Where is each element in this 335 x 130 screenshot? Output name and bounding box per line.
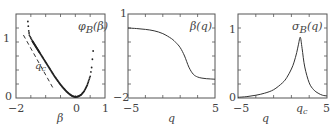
data-point [89, 75, 91, 77]
data-point [28, 30, 30, 32]
panel3-xlabel: q [262, 112, 269, 125]
panel2-series-label: β(q) [189, 20, 212, 33]
panel-sigma-q: σB(q) 1 0 −5 qc 5 q [229, 14, 330, 125]
data-point [91, 58, 93, 60]
data-point [92, 50, 94, 52]
panel1-xlabel: β [56, 112, 63, 125]
figure: φB(β) qc 1 0 −2 0 1 β β(q) 1 −2 −5 5 q σ… [0, 0, 335, 130]
data-point [90, 71, 92, 73]
panel-beta-q: β(q) 1 −2 −5 5 q [113, 7, 219, 125]
panel2-xlabel: q [168, 112, 175, 125]
panel3-ytick-1: 1 [229, 23, 236, 36]
data-point [27, 21, 29, 23]
data-point [91, 67, 93, 69]
panel1-xtick-0: 0 [73, 102, 80, 115]
panel3-series-label: σB(q) [292, 20, 323, 35]
panel3-xtick-qc: qc [296, 102, 308, 116]
panel3-sigma-curve [238, 37, 327, 97]
panel3-xtick-neg5: −5 [233, 102, 249, 115]
panel1-xtick-neg2: −2 [8, 102, 24, 115]
panel-phi-beta: φB(β) qc 1 0 −2 0 1 β [3, 14, 109, 125]
panel3-xtick-5: 5 [323, 102, 330, 115]
panel1-series-label: φB(β) [78, 20, 108, 35]
data-point [27, 25, 29, 27]
panel2-ytick-1: 1 [120, 7, 127, 20]
panel2-xtick-neg5: −5 [123, 102, 139, 115]
panel1-ytick-1: 1 [3, 32, 10, 45]
panel2-beta-curve [128, 28, 215, 79]
panel2-xtick-5: 5 [212, 102, 219, 115]
data-point [28, 32, 30, 34]
panel1-xtick-1: 1 [102, 102, 109, 115]
